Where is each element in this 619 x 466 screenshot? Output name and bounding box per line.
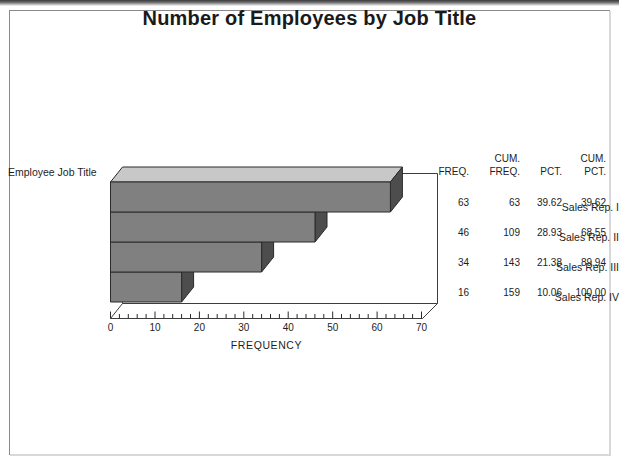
cell-cum-pct: 39.62 (562, 197, 606, 208)
x-axis-tick-label-10: 10 (149, 322, 160, 333)
cell-cum-pct: 68.55 (562, 227, 606, 238)
table-header-pct: PCT. (524, 166, 562, 177)
cell-cum-freq: 159 (474, 287, 520, 298)
bar-front-face (111, 182, 391, 212)
table-header-cum-freq-line2: FREQ. (474, 166, 520, 177)
cell-pct: 28.93 (524, 227, 562, 238)
x-axis-ticks (111, 312, 422, 319)
table-header-cum-pct-line2: PCT. (562, 166, 606, 177)
x-axis-tick-label-70: 70 (416, 322, 427, 333)
cell-pct: 39.62 (524, 197, 562, 208)
cell-cum-pct: 100.00 (562, 287, 606, 298)
cell-pct: 21.38 (524, 257, 562, 268)
cell-cum-pct: 89.94 (562, 257, 606, 268)
bar-sales-rep-i (111, 167, 403, 212)
x-axis-tick-label-40: 40 (283, 322, 294, 333)
x-axis-tick-label-30: 30 (238, 322, 249, 333)
bar-top-face (111, 167, 403, 182)
cell-pct: 10.06 (524, 287, 562, 298)
x-axis-tick-label-20: 20 (194, 322, 205, 333)
chart-page: Number of Employees by Job Title (0, 0, 619, 466)
x-axis-title: FREQUENCY (111, 339, 422, 351)
table-header-cum-freq-line1: CUM. (474, 153, 520, 164)
x-axis-tick-label-0: 0 (108, 322, 114, 333)
cell-cum-freq: 109 (474, 227, 520, 238)
cell-freq: 16 (429, 287, 469, 298)
plot-floor (111, 304, 438, 319)
cell-cum-freq: 143 (474, 257, 520, 268)
cell-freq: 34 (429, 257, 469, 268)
cell-freq: 63 (429, 197, 469, 208)
bar-front-face (111, 212, 316, 242)
cell-cum-freq: 63 (474, 197, 520, 208)
y-axis-title: Employee Job Title (8, 166, 97, 178)
x-axis-tick-label-50: 50 (327, 322, 338, 333)
bar-front-face (111, 242, 262, 272)
bar-front-face (111, 272, 182, 302)
x-axis-tick-label-60: 60 (372, 322, 383, 333)
cell-freq: 46 (429, 227, 469, 238)
table-header-freq: FREQ. (429, 166, 469, 177)
table-header-cum-pct-line1: CUM. (562, 153, 606, 164)
table-header-row: FREQ. CUM. FREQ. PCT. CUM. PCT. (436, 152, 606, 178)
